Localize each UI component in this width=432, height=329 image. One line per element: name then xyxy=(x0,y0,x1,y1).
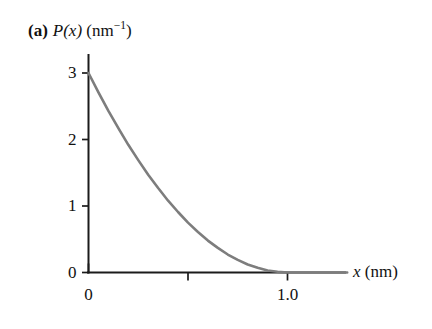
data-curve-px xyxy=(89,73,348,273)
y-tick-label: 0 xyxy=(43,264,77,281)
xaxis-title-unit: (nm) xyxy=(365,262,398,281)
xaxis-title-symbol: x xyxy=(353,262,361,281)
figure-root: (a)P(x) (nm−1) 0123 01.0 x (nm) xyxy=(0,0,432,329)
y-tick-label: 1 xyxy=(43,197,77,214)
x-tick-label: 0 xyxy=(59,286,119,303)
y-tick-label: 3 xyxy=(43,64,77,81)
y-tick-label: 2 xyxy=(43,131,77,148)
x-tick-label: 1.0 xyxy=(258,286,318,303)
x-axis-title: x (nm) xyxy=(353,263,398,280)
